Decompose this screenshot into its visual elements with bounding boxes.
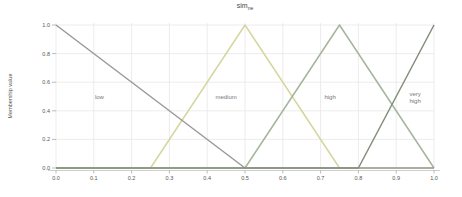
y-axis-label: Membership value	[7, 74, 13, 119]
x-tick-label: 0.8	[355, 175, 363, 181]
membership-chart-canvas: 0.00.10.20.30.40.50.60.70.80.91.00.00.20…	[0, 0, 462, 197]
chart-title-subscript: ne	[248, 5, 254, 11]
x-tick-label: 0.7	[317, 175, 325, 181]
x-tick-label: 0.6	[279, 175, 287, 181]
series-label-high: high	[324, 94, 335, 100]
x-tick-label: 0.3	[166, 175, 174, 181]
y-tick-label: 0.6	[42, 79, 50, 85]
series-label-low: low	[95, 94, 105, 100]
y-tick-label: 0.4	[42, 108, 50, 114]
x-tick-label: 0.0	[52, 175, 60, 181]
x-tick-label: 0.5	[241, 175, 249, 181]
fuzzy-membership-figure: 0.00.10.20.30.40.50.60.70.80.91.00.00.20…	[0, 0, 462, 197]
y-tick-label: 0.8	[42, 51, 50, 57]
y-tick-label: 0.2	[42, 136, 50, 142]
y-tick-label: 1.0	[42, 22, 50, 28]
x-tick-label: 1.0	[430, 175, 438, 181]
x-tick-label: 0.9	[392, 175, 400, 181]
y-tick-label: 0.0	[42, 165, 50, 171]
chart-title-base: sim	[237, 2, 248, 9]
x-tick-label: 0.2	[128, 175, 136, 181]
x-tick-label: 0.4	[203, 175, 211, 181]
chart-title: simne	[56, 2, 434, 11]
series-label-medium: medium	[215, 94, 236, 100]
x-tick-label: 0.1	[90, 175, 98, 181]
series-label-very-high: veryhigh	[409, 91, 420, 104]
